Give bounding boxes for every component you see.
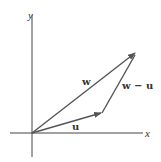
y-axis-label: y — [28, 10, 33, 20]
vector-w-minus-u-label: w − u — [122, 81, 153, 91]
vector-w — [32, 53, 135, 133]
vector-w-label: w — [82, 77, 91, 87]
x-axis-label: x — [145, 128, 150, 138]
vector-u-label: u — [72, 122, 79, 132]
vector-u — [32, 113, 101, 133]
